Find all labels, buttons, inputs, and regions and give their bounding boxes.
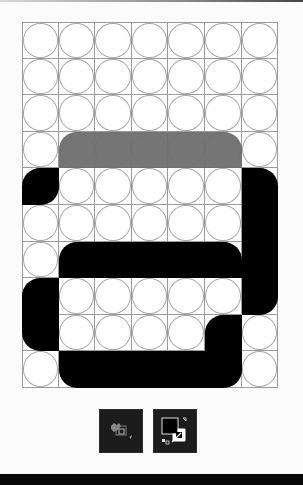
board-cell[interactable] [59, 22, 96, 59]
circle-slot [95, 59, 131, 95]
circle-slot [95, 205, 131, 241]
circle-slot [59, 168, 95, 204]
board-cell[interactable] [132, 22, 169, 59]
circle-slot [168, 315, 204, 351]
circle-slot [168, 95, 204, 131]
board-cell[interactable] [95, 168, 132, 205]
board-cell[interactable] [132, 278, 169, 315]
board-cell[interactable] [205, 22, 242, 59]
circle-slot [59, 278, 95, 314]
board-cell[interactable] [59, 205, 96, 242]
circle-slot [132, 95, 168, 131]
circle-slot [23, 95, 58, 131]
board-cell[interactable] [242, 22, 279, 59]
board-cell[interactable] [59, 315, 96, 352]
circle-slot [242, 351, 278, 387]
circle-slot [23, 23, 58, 58]
fill-stroke-swap-button[interactable] [153, 409, 197, 453]
board-cell[interactable] [22, 242, 59, 279]
circle-slot [132, 23, 168, 58]
piece-black-vertical-left[interactable] [22, 278, 59, 351]
circle-slot [95, 278, 131, 314]
board-cell[interactable] [242, 315, 279, 352]
window-top-edge [0, 0, 303, 2]
circle-slot [242, 23, 278, 58]
board-cell[interactable] [168, 168, 205, 205]
board-cell[interactable] [95, 22, 132, 59]
board-cell[interactable] [168, 205, 205, 242]
board-cell[interactable] [59, 278, 96, 315]
board-cell[interactable] [168, 278, 205, 315]
circle-slot [95, 168, 131, 204]
board-cell[interactable] [22, 59, 59, 96]
circle-slot [205, 278, 241, 314]
circle-slot [95, 315, 131, 351]
board-cell[interactable] [205, 95, 242, 132]
board-cell[interactable] [132, 168, 169, 205]
board-cell[interactable] [22, 22, 59, 59]
circle-slot [23, 59, 58, 95]
board-cell[interactable] [22, 351, 59, 388]
board-cell[interactable] [242, 59, 279, 96]
circle-slot [23, 132, 58, 168]
circle-slot [168, 168, 204, 204]
circle-slot [168, 59, 204, 95]
circle-slot [59, 23, 95, 58]
bottom-bar [0, 474, 303, 485]
board-cell[interactable] [242, 351, 279, 388]
circle-slot [205, 23, 241, 58]
board-cell[interactable] [95, 95, 132, 132]
board-cell[interactable] [132, 59, 169, 96]
circle-slot [132, 59, 168, 95]
circle-slot [132, 278, 168, 314]
piece-black-bar-middle[interactable] [59, 242, 242, 279]
board-cell[interactable] [22, 132, 59, 169]
board-cell[interactable] [22, 205, 59, 242]
board-cell[interactable] [168, 315, 205, 352]
board-cell[interactable] [132, 205, 169, 242]
circle-slot [205, 95, 241, 131]
board-cell[interactable] [168, 22, 205, 59]
color-picker-button[interactable] [99, 409, 143, 453]
paint-bucket-icon [100, 410, 142, 452]
circle-slot [132, 205, 168, 241]
board-cell[interactable] [205, 205, 242, 242]
piece-black-bar-bottom[interactable] [59, 351, 242, 388]
circle-slot [242, 95, 278, 131]
piece-black-corner-left[interactable] [22, 168, 59, 205]
board-cell[interactable] [59, 95, 96, 132]
board-cell[interactable] [168, 95, 205, 132]
circle-slot [95, 95, 131, 131]
circle-slot [168, 205, 204, 241]
circle-slot [205, 168, 241, 204]
piece-gray-bar[interactable] [59, 132, 242, 169]
board-cell[interactable] [95, 205, 132, 242]
piece-black-vertical-right[interactable] [242, 168, 279, 314]
fill-stroke-icon [154, 410, 196, 452]
board-cell[interactable] [205, 278, 242, 315]
circle-slot [59, 205, 95, 241]
board-cell[interactable] [95, 59, 132, 96]
circle-slot [205, 205, 241, 241]
game-board[interactable] [22, 22, 278, 388]
board-cell[interactable] [242, 95, 279, 132]
circle-slot [242, 315, 278, 351]
board-cell[interactable] [59, 168, 96, 205]
board-cell[interactable] [22, 95, 59, 132]
circle-slot [59, 95, 95, 131]
circle-slot [242, 132, 278, 168]
board-cell[interactable] [168, 59, 205, 96]
board-cell[interactable] [242, 132, 279, 169]
piece-black-step[interactable] [205, 315, 242, 352]
board-cell[interactable] [95, 315, 132, 352]
board-cell[interactable] [205, 59, 242, 96]
board-cell[interactable] [95, 278, 132, 315]
board-cell[interactable] [59, 59, 96, 96]
circle-slot [23, 351, 58, 387]
circle-slot [168, 278, 204, 314]
circle-slot [59, 59, 95, 95]
board-cell[interactable] [132, 95, 169, 132]
board-cell[interactable] [205, 168, 242, 205]
board-cell[interactable] [132, 315, 169, 352]
circle-slot [205, 59, 241, 95]
